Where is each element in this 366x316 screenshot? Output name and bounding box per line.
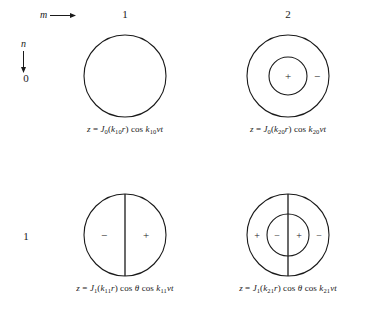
mode-diagram-n1-m2: + − + −: [242, 189, 334, 281]
mode-equation-n0-m2: z = J0(k20r) cos k20vt: [218, 124, 358, 134]
sign-marker-plus-inner-right: +: [296, 230, 302, 241]
sign-marker-plus: +: [285, 70, 291, 82]
eq-equals: =: [82, 283, 87, 293]
m-axis-guide: m: [40, 10, 76, 20]
eq-theta: θ: [298, 283, 303, 293]
column-header-m2: 2: [278, 8, 298, 20]
outer-boundary-circle: [84, 35, 166, 117]
mode-diagram-n0-m2: + −: [242, 30, 334, 122]
eq-bessel-order: 1: [94, 287, 97, 294]
eq-arg-k-sub: 11: [105, 287, 111, 294]
eq-bessel: J: [100, 124, 104, 134]
eq-time-k-sub: 21: [323, 287, 330, 294]
eq-arg-k-sub: 10: [115, 128, 122, 135]
sign-marker-minus: −: [314, 70, 320, 82]
eq-cos2: cos: [142, 283, 154, 293]
eq-bessel-order: 0: [268, 128, 271, 135]
mode-equation-n1-m2: z = J1(k21r) cos θ cos k21vt: [218, 283, 358, 293]
eq-time-vt: vt: [156, 124, 163, 134]
eq-cos: cos: [294, 124, 306, 134]
eq-arg-k-sub: 20: [278, 128, 285, 135]
arrow-down-icon: [20, 51, 27, 73]
eq-theta: θ: [135, 283, 140, 293]
mode-cell-n0-m2: + − z = J0(k20r) cos k20vt: [218, 30, 358, 134]
eq-equals: =: [93, 124, 98, 134]
eq-time-k-sub: 20: [313, 128, 320, 135]
mode-diagram-n0-m1: [79, 30, 171, 122]
mode-cell-n1-m1: − + z = J1(k11r) cos θ cos k11vt: [55, 189, 195, 293]
eq-cos: cos: [283, 283, 295, 293]
n-axis-guide: n: [20, 39, 27, 73]
eq-time-vt: vt: [319, 124, 326, 134]
arrow-right-icon: [50, 12, 76, 19]
eq-time-k-sub: 10: [150, 128, 157, 135]
eq-lhs: z: [87, 124, 91, 134]
eq-arg-k: k: [100, 283, 104, 293]
sign-marker-minus-outer-right: −: [316, 230, 322, 241]
n-axis-label: n: [21, 39, 26, 49]
eq-cos2: cos: [305, 283, 317, 293]
eq-lhs: z: [250, 124, 254, 134]
eq-equals: =: [256, 124, 261, 134]
eq-bessel: J: [263, 124, 267, 134]
sign-marker-minus-inner-left: −: [274, 230, 280, 241]
eq-bessel-order: 0: [105, 128, 108, 135]
membrane-modes-figure: m n 1 2 0 1 z = J0(k10r) cos k10vt: [0, 0, 366, 316]
eq-time-vt: vt: [330, 283, 337, 293]
mode-cell-n1-m2: + − + − z = J1(k21r) cos θ cos k21vt: [218, 189, 358, 293]
mode-equation-n0-m1: z = J0(k10r) cos k10vt: [55, 124, 195, 134]
eq-equals: =: [245, 283, 250, 293]
eq-cos: cos: [120, 283, 132, 293]
row-header-n1: 1: [16, 230, 36, 242]
sign-marker-plus: +: [143, 229, 149, 241]
sign-marker-minus: −: [101, 229, 107, 241]
row-header-n0: 0: [16, 72, 36, 84]
mode-equation-n1-m1: z = J1(k11r) cos θ cos k11vt: [55, 283, 195, 293]
eq-time-vt: vt: [167, 283, 174, 293]
eq-bessel-order: 1: [257, 287, 260, 294]
column-header-m1: 1: [115, 8, 135, 20]
m-axis-label: m: [40, 10, 47, 20]
sign-marker-plus-outer-left: +: [254, 230, 260, 241]
eq-cos: cos: [131, 124, 143, 134]
eq-arg-k-sub: 21: [267, 287, 274, 294]
mode-cell-n0-m1: z = J0(k10r) cos k10vt: [55, 30, 195, 134]
mode-diagram-n1-m1: − +: [79, 189, 171, 281]
eq-time-k-sub: 11: [160, 287, 166, 294]
